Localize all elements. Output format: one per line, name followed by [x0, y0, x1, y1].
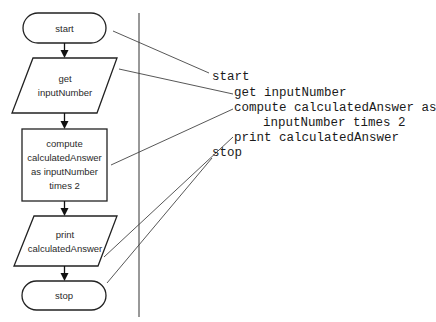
pseudocode-line-stop: stop: [212, 146, 242, 160]
pseudocode-line-compute-cont: inputNumber times 2: [263, 116, 406, 130]
arrowhead-icon: [61, 121, 69, 129]
get-input-label-line2: inputNumber: [38, 87, 92, 98]
arrowhead-icon: [61, 50, 69, 58]
compute-label-line2: calculatedAnswer: [27, 152, 101, 163]
pseudocode-line-print: print calculatedAnswer: [234, 131, 399, 145]
get-input-label-line1: get: [58, 73, 72, 84]
compute-label-line3: as inputNumber: [31, 166, 98, 177]
get-input-parallelogram: get inputNumber: [12, 58, 117, 113]
stop-label: stop: [55, 290, 73, 301]
pseudocode-line-compute: compute calculatedAnswer as: [234, 101, 436, 115]
arrowhead-icon: [61, 208, 69, 216]
flow-arrow: [61, 266, 69, 281]
flowchart-pseudocode-diagram: start get inputNumber compute calculated…: [0, 0, 436, 322]
pseudocode-block: start get inputNumber compute calculated…: [212, 70, 436, 160]
compute-label-line1: compute: [46, 138, 82, 149]
compute-process-box: compute calculatedAnswer as inputNumber …: [22, 129, 107, 201]
start-terminal: start: [23, 13, 106, 43]
print-label-line2: calculatedAnswer: [28, 243, 102, 254]
flow-arrow: [61, 43, 69, 58]
connector-start: [113, 31, 209, 73]
connector-stop: [107, 158, 212, 283]
pseudocode-line-start: start: [212, 70, 250, 84]
pseudocode-line-get: get inputNumber: [234, 86, 347, 100]
stop-terminal: stop: [22, 281, 106, 310]
flow-arrow: [61, 113, 69, 129]
flow-arrow: [61, 201, 69, 216]
print-parallelogram: print calculatedAnswer: [14, 216, 117, 266]
compute-label-line4: times 2: [49, 180, 80, 191]
print-label-line1: print: [56, 229, 75, 240]
arrowhead-icon: [61, 273, 69, 281]
start-label: start: [55, 23, 74, 34]
